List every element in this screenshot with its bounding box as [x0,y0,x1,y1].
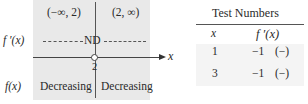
interval-right-label: (2, ∞) [112,6,139,18]
cell-fprime: −1 [252,45,264,57]
function-row-label: f(x) [5,80,21,92]
dashed-line-right [104,41,146,43]
table-title: Test Numbers [212,6,279,21]
dashed-line-left [43,41,83,43]
cell-sign: (−) [275,45,289,57]
behavior-right: Decreasing [101,80,153,92]
critical-point-value: 2 [92,61,97,72]
cell-x: 3 [212,67,218,79]
cell-x: 1 [212,45,218,57]
open-circle-icon [91,54,98,61]
interval-left-label: (−∞, 2) [47,6,81,18]
table-header-x: x [211,27,216,39]
cell-fprime: −1 [252,67,264,79]
table-header-fprime: f ′(x) [256,27,279,42]
axis-x-label: x [168,49,173,64]
cell-sign: (−) [275,67,289,79]
behavior-left: Decreasing [40,80,92,92]
table-header-rule [196,24,304,25]
axis-arrow-icon [159,54,166,60]
critical-point-divider [95,2,96,98]
derivative-row-label: f ′(x) [3,34,24,46]
not-defined-label: ND [84,34,101,46]
